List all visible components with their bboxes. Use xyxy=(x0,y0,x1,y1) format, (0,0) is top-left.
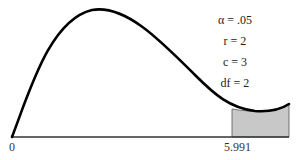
r-label: r = 2 xyxy=(200,31,270,52)
df-label: df = 2 xyxy=(200,73,270,94)
rejection-region xyxy=(232,105,289,137)
tick-label-critical: 5.991 xyxy=(224,140,251,155)
tick-label-zero: 0 xyxy=(9,140,15,155)
parameter-block: α = .05 r = 2 c = 3 df = 2 xyxy=(200,10,270,94)
c-label: c = 3 xyxy=(200,52,270,73)
alpha-label: α = .05 xyxy=(200,10,270,31)
